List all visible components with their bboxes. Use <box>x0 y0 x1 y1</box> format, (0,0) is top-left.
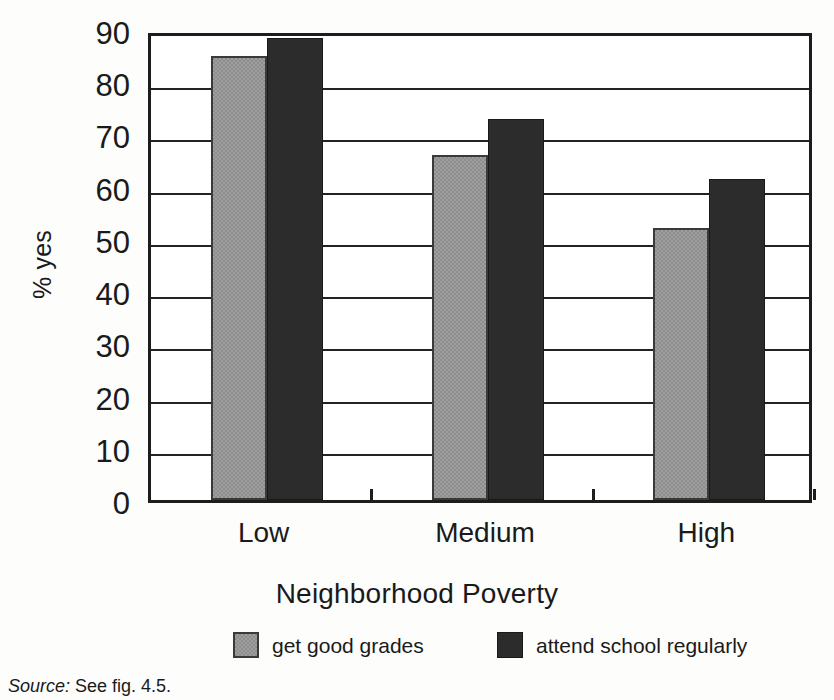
chart-legend: get good gradesattend school regularly <box>0 632 834 666</box>
y-tick-label: 30 <box>68 331 130 362</box>
bar-low-grades <box>211 56 267 500</box>
y-tick-label: 0 <box>68 488 130 519</box>
legend-item-grades: get good grades <box>233 632 424 658</box>
x-axis-tick <box>370 489 373 500</box>
x-axis-title: Neighborhood Poverty <box>0 578 834 610</box>
source-note: Source: See fig. 4.5. <box>8 676 171 696</box>
x-axis-tick-labels: LowMediumHigh <box>148 516 812 556</box>
plot-area <box>148 33 812 503</box>
source-text: See fig. 4.5. <box>70 676 171 696</box>
y-tick-label: 70 <box>68 122 130 153</box>
x-tick-label-high: High <box>678 516 736 550</box>
y-tick-label: 80 <box>68 70 130 101</box>
bar-high-grades <box>653 228 709 500</box>
bar-medium-attendance <box>488 119 544 500</box>
source-keyword: Source: <box>8 676 70 696</box>
bar-low-attendance <box>267 38 323 500</box>
bar-chart-figure: % yes 0102030405060708090 LowMediumHigh … <box>0 0 834 700</box>
x-tick-label-low: Low <box>238 516 289 550</box>
y-tick-label: 10 <box>68 436 130 467</box>
bars-container <box>151 36 809 500</box>
legend-label: attend school regularly <box>536 635 747 656</box>
legend-label: get good grades <box>272 635 424 656</box>
y-axis-label: % yes <box>28 205 57 325</box>
y-axis-tick-labels: 0102030405060708090 <box>68 0 130 520</box>
dark-swatch <box>497 632 523 658</box>
y-tick-label: 60 <box>68 175 130 206</box>
x-tick-label-medium: Medium <box>435 516 535 550</box>
bar-medium-grades <box>432 155 488 500</box>
bar-high-attendance <box>709 179 765 500</box>
y-tick-label: 40 <box>68 279 130 310</box>
y-tick-label: 50 <box>68 227 130 258</box>
legend-item-attendance: attend school regularly <box>497 632 747 658</box>
y-tick-label: 90 <box>68 18 130 49</box>
light-gray-swatch <box>233 632 259 658</box>
y-tick-label: 20 <box>68 384 130 415</box>
x-axis-tick <box>592 489 595 500</box>
x-axis-tick <box>813 489 816 500</box>
